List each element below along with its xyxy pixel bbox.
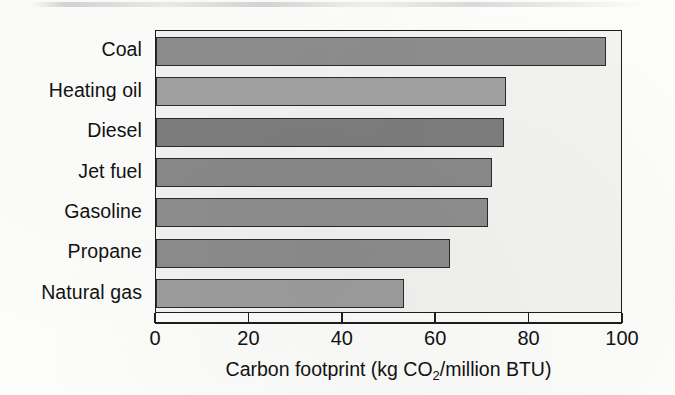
x-axis-tick-label: 40	[331, 327, 353, 350]
bar-row	[156, 118, 623, 147]
bar-row	[156, 279, 623, 308]
category-label: Natural gas	[41, 281, 142, 304]
category-label: Gasoline	[64, 200, 142, 223]
x-axis-tick	[154, 313, 156, 323]
bar	[156, 239, 450, 268]
bar	[156, 37, 606, 66]
bar-row	[156, 198, 623, 227]
x-axis-tick	[341, 313, 343, 323]
x-axis-tick	[528, 313, 530, 323]
x-axis-tick-label: 20	[237, 327, 259, 350]
x-axis-title-subscript: 2	[433, 368, 440, 383]
bar	[156, 279, 404, 308]
bar-row	[156, 158, 623, 187]
category-label: Diesel	[87, 119, 142, 142]
bar-row	[156, 37, 623, 66]
category-axis-labels: CoalHeating oilDieselJet fuelGasolinePro…	[0, 0, 148, 395]
category-label: Propane	[68, 240, 142, 263]
x-axis-tick-label: 100	[605, 327, 638, 350]
bar-row	[156, 239, 623, 268]
x-axis-tick-label: 80	[517, 327, 539, 350]
x-axis-tick-label: 0	[149, 327, 160, 350]
category-label: Coal	[101, 38, 142, 61]
x-axis-line	[155, 322, 622, 324]
x-axis-tick-label: 60	[424, 327, 446, 350]
category-label: Jet fuel	[78, 160, 142, 183]
plot-area	[155, 30, 622, 313]
x-axis-tick	[434, 313, 436, 323]
x-axis-tick	[621, 313, 623, 323]
x-axis-tick	[248, 313, 250, 323]
bar	[156, 118, 504, 147]
x-axis-title-before: Carbon footprint (kg CO	[226, 358, 433, 380]
bar	[156, 158, 492, 187]
chart-page: CoalHeating oilDieselJet fuelGasolinePro…	[0, 0, 675, 395]
bar-row	[156, 77, 623, 106]
bar	[156, 77, 506, 106]
x-axis-title: Carbon footprint (kg CO2/million BTU)	[155, 358, 622, 381]
category-label: Heating oil	[49, 79, 142, 102]
x-axis-title-after: /million BTU)	[440, 358, 552, 380]
bar	[156, 198, 488, 227]
